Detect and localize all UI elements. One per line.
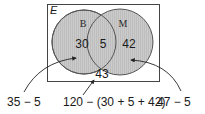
set-m-only-count: 42: [122, 37, 136, 51]
set-m-label: M: [119, 18, 128, 29]
venn-diagram: E B M 30 5 42 43 35 − 5 120 − (30 + 5 + …: [0, 0, 205, 114]
set-b-only-count: 30: [75, 37, 89, 51]
arrow-middle: [83, 80, 94, 95]
annotation-middle: 120 − (30 + 5 + 42): [63, 95, 165, 109]
annotation-right: 47 − 5: [157, 95, 191, 109]
outside-count: 43: [95, 67, 109, 81]
universe-label: E: [50, 4, 58, 16]
intersection-count: 5: [100, 37, 107, 51]
set-b-label: B: [80, 18, 87, 29]
annotation-left: 35 − 5: [7, 95, 41, 109]
